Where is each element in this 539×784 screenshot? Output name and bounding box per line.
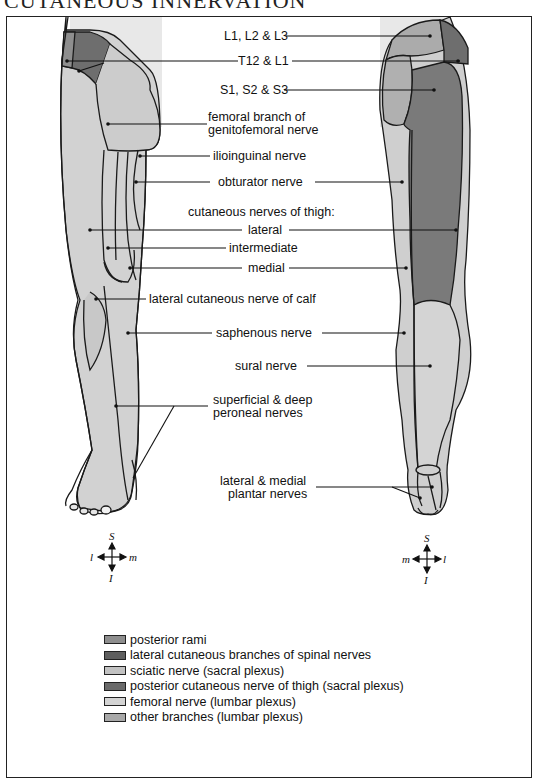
label-saphenous: saphenous nerve <box>216 327 312 340</box>
legend-label: lateral cutaneous branches of spinal ner… <box>130 648 371 662</box>
label-sural: sural nerve <box>235 360 297 373</box>
legend-item-posterior-cutaneous-thigh: posterior cutaneous nerve of thigh (sacr… <box>104 679 404 695</box>
label-t12-l1: T12 & L1 <box>238 55 289 68</box>
legend-swatch <box>104 697 126 706</box>
compass-right-medial: m <box>402 553 410 565</box>
label-lateral-calf: lateral cutaneous nerve of calf <box>149 293 316 306</box>
legend-item-sciatic: sciatic nerve (sacral plexus) <box>104 663 404 679</box>
legend-item-other-branches: other branches (lumbar plexus) <box>104 710 404 726</box>
label-obturator: obturator nerve <box>218 176 303 189</box>
legend-label: femoral nerve (lumbar plexus) <box>130 695 296 709</box>
anterior-leg <box>61 17 160 515</box>
label-s1-s2-s3: S1, S2 & S3 <box>220 84 288 97</box>
label-lateral: lateral <box>248 224 282 237</box>
compass-left-inferior: I <box>109 572 113 584</box>
posterior-leg <box>380 17 471 515</box>
legend-swatch <box>104 682 126 691</box>
label-l1-l2-l3: L1, L2 & L3 <box>224 30 288 43</box>
compass-left-medial: m <box>129 551 137 563</box>
label-plantar-2: plantar nerves <box>228 488 307 501</box>
label-ilioinguinal: ilioinguinal nerve <box>213 150 306 163</box>
legend-label: posterior rami <box>130 633 206 647</box>
legend-label: sciatic nerve (sacral plexus) <box>130 664 284 678</box>
legend-item-posterior-rami: posterior rami <box>104 632 404 648</box>
legend-label: other branches (lumbar plexus) <box>130 710 303 724</box>
compass-right-lateral: l <box>443 553 446 565</box>
compass-right-icon <box>413 545 441 573</box>
legend-item-femoral: femoral nerve (lumbar plexus) <box>104 694 404 710</box>
label-medial: medial <box>248 262 285 275</box>
legend-swatch <box>104 666 126 675</box>
legend-swatch <box>104 713 126 722</box>
compass-left-lateral: l <box>90 551 93 563</box>
legend-swatch <box>104 651 126 660</box>
legend-item-lateral-cutaneous: lateral cutaneous branches of spinal ner… <box>104 648 404 664</box>
compass-right-superior: S <box>424 532 430 544</box>
compass-left-icon <box>98 543 126 571</box>
legend-label: posterior cutaneous nerve of thigh (sacr… <box>130 679 404 693</box>
compass-right-inferior: I <box>424 574 428 586</box>
legend: posterior rami lateral cutaneous branche… <box>104 632 404 725</box>
label-cutaneous-thigh: cutaneous nerves of thigh: <box>188 206 335 219</box>
legend-swatch <box>104 635 126 644</box>
compass-left-superior: S <box>109 530 115 542</box>
label-femoral-branch-2: genitofemoral nerve <box>208 124 318 137</box>
label-intermediate: intermediate <box>229 242 298 255</box>
label-peroneal-2: peroneal nerves <box>213 407 303 420</box>
